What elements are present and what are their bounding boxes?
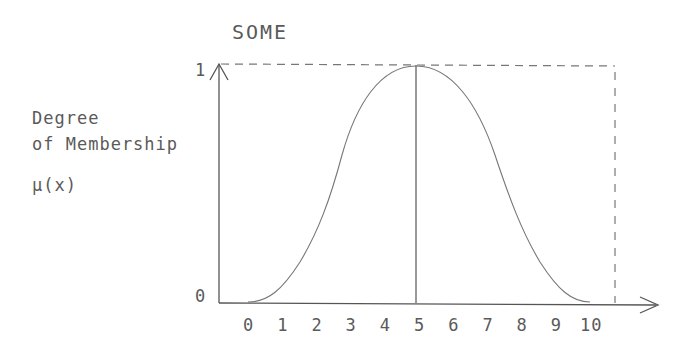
membership-curve (248, 66, 590, 302)
x-axis (219, 303, 656, 305)
chart-plot (0, 0, 693, 347)
